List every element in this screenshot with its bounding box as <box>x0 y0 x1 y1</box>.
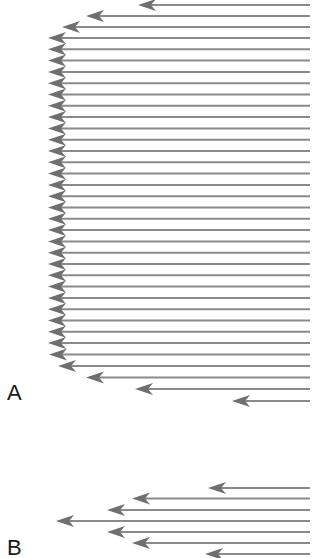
flow-arrow-icon <box>205 548 310 558</box>
flow-arrow-icon <box>132 493 310 505</box>
flow-arrow-icon <box>48 145 310 157</box>
flow-arrow-icon <box>48 337 310 349</box>
flow-arrow-icon <box>56 515 310 527</box>
panel-label-a: A <box>7 382 22 404</box>
flow-arrow-icon <box>208 482 310 494</box>
flow-arrow-icon <box>48 247 310 259</box>
flow-arrow-icon <box>48 235 310 247</box>
flow-arrow-icon <box>48 168 310 180</box>
flow-arrow-icon <box>48 326 310 338</box>
flow-arrow-icon <box>48 89 310 101</box>
flow-profile-diagram <box>0 0 316 558</box>
flow-arrow-icon <box>49 348 310 360</box>
flow-arrow-icon <box>48 258 310 270</box>
flow-arrow-icon <box>48 100 310 112</box>
flow-arrow-icon <box>107 526 310 538</box>
panel-label-b: B <box>7 537 22 558</box>
flow-arrow-icon <box>135 383 310 395</box>
flow-arrow-icon <box>48 156 310 168</box>
flow-arrow-icon <box>48 134 310 146</box>
flow-arrow-icon <box>48 77 310 89</box>
flow-arrow-icon <box>48 213 310 225</box>
panel-a-plug-flow-arrows <box>48 0 310 407</box>
flow-arrow-icon <box>48 66 310 78</box>
flow-arrow-icon <box>48 315 310 327</box>
flow-arrow-icon <box>48 292 310 304</box>
flow-arrow-icon <box>48 179 310 191</box>
flow-arrow-icon <box>48 303 310 315</box>
flow-arrow-icon <box>48 122 310 134</box>
flow-arrow-icon <box>86 372 310 384</box>
flow-arrow-icon <box>48 269 310 281</box>
flow-arrow-icon <box>132 537 310 549</box>
flow-arrow-icon <box>48 55 310 67</box>
flow-arrow-icon <box>232 395 310 407</box>
flow-arrow-icon <box>48 202 310 214</box>
flow-arrow-icon <box>86 10 310 22</box>
flow-arrow-icon <box>107 504 310 516</box>
flow-arrow-icon <box>48 43 310 55</box>
flow-arrow-icon <box>48 32 310 44</box>
flow-arrow-icon <box>48 111 310 123</box>
flow-arrow-icon <box>138 0 310 11</box>
flow-arrow-icon <box>48 224 310 236</box>
flow-arrow-icon <box>62 21 310 33</box>
panel-b-parabolic-flow-arrows <box>56 482 310 558</box>
flow-arrow-icon <box>48 190 310 202</box>
flow-arrow-icon <box>48 281 310 293</box>
flow-arrow-icon <box>58 360 310 372</box>
